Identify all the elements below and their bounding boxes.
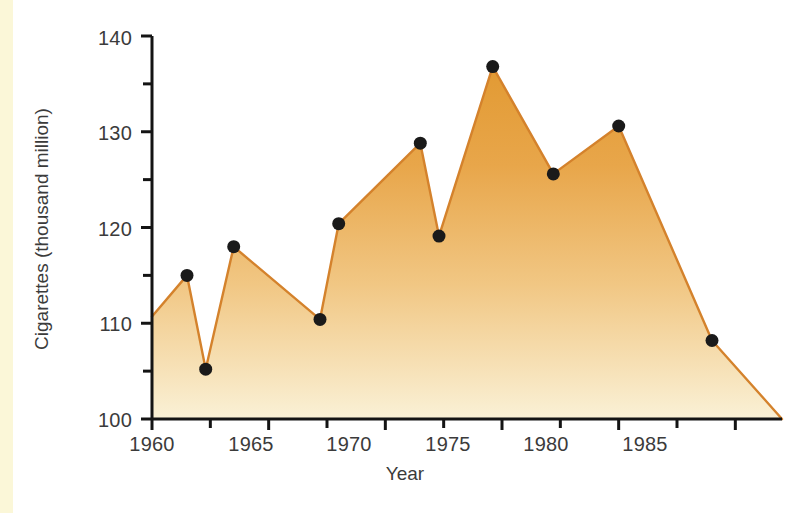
x-tick-label-1960: 1960 xyxy=(112,433,192,456)
plot-figure: 140 130 120 110 100 1960 1965 1970 1975 … xyxy=(0,0,812,513)
data-point xyxy=(227,240,240,253)
data-point xyxy=(181,269,194,282)
x-tick-label-1965: 1965 xyxy=(211,433,291,456)
x-tick-label-1985: 1985 xyxy=(605,433,685,456)
y-axis-title: Cigarettes (thousand million) xyxy=(31,79,53,379)
area-fill xyxy=(152,67,782,419)
x-axis-title: Year xyxy=(365,463,445,485)
y-tick-label-110: 110 xyxy=(72,313,132,336)
data-point xyxy=(486,60,499,73)
chart-figure: 140 130 120 110 100 1960 1965 1970 1975 … xyxy=(0,0,812,513)
x-tick-label-1970: 1970 xyxy=(309,433,389,456)
y-tick-label-100: 100 xyxy=(72,409,132,432)
y-tick-label-140: 140 xyxy=(72,27,132,50)
y-tick-label-130: 130 xyxy=(72,122,132,145)
data-point xyxy=(612,120,625,133)
data-point xyxy=(433,230,446,243)
x-axis-ticks xyxy=(152,419,735,430)
data-point xyxy=(199,363,212,376)
x-tick-label-1975: 1975 xyxy=(408,433,488,456)
data-point xyxy=(414,137,427,150)
x-tick-label-1980: 1980 xyxy=(506,433,586,456)
data-point xyxy=(314,313,327,326)
data-point xyxy=(332,217,345,230)
y-axis-ticks xyxy=(141,36,152,419)
data-point xyxy=(547,167,560,180)
data-point xyxy=(706,334,719,347)
y-tick-label-120: 120 xyxy=(72,218,132,241)
